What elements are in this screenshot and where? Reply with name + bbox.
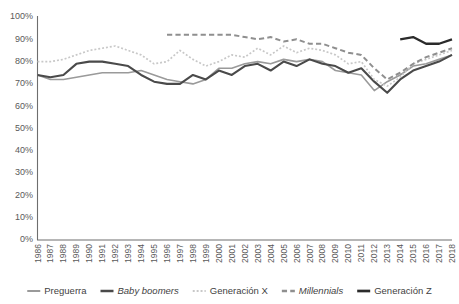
legend-label: Generación X	[210, 285, 269, 296]
y-axis-tick-label: 50%	[15, 123, 33, 133]
x-axis-tick-label: 2013	[382, 244, 392, 263]
y-axis-tick-labels: 0%10%20%30%40%50%60%70%80%90%100%	[10, 11, 33, 244]
x-axis-tick-labels: 1986198719881989199019911992199319941995…	[33, 244, 458, 263]
y-axis-tick-label: 20%	[15, 190, 33, 200]
chart-canvas: 0%10%20%30%40%50%60%70%80%90%100% 198619…	[0, 0, 459, 304]
y-axis-tick-label: 0%	[20, 234, 33, 244]
x-axis-tick-label: 1997	[175, 244, 185, 263]
axis-lines	[38, 16, 453, 240]
x-axis-tick-label: 2010	[343, 244, 353, 263]
x-axis-tick-label: 1999	[201, 244, 211, 263]
legend-item-preguerra[interactable]: Preguerra	[27, 285, 87, 296]
x-axis-tick-label: 1986	[33, 244, 43, 263]
series-line-generacion-z	[400, 37, 452, 44]
x-axis-tick-label: 1995	[149, 244, 159, 263]
line-chart: 0%10%20%30%40%50%60%70%80%90%100% 198619…	[0, 0, 459, 304]
x-axis-tick-label: 2007	[305, 244, 315, 263]
y-axis-tick-label: 100%	[10, 11, 33, 21]
y-axis-tick-label: 10%	[15, 212, 33, 222]
legend-item-millennials[interactable]: Millennials	[282, 285, 344, 296]
legend-label: Generación Z	[374, 285, 432, 296]
x-axis-tick-label: 1996	[162, 244, 172, 263]
x-axis-tick-label: 2003	[253, 244, 263, 263]
legend-label: Millennials	[299, 285, 344, 296]
legend-label: Baby boomers	[117, 285, 179, 296]
series-lines	[38, 35, 453, 93]
legend-item-generacion-x[interactable]: Generación X	[193, 285, 269, 296]
x-axis-tick-label: 2002	[240, 244, 250, 263]
x-axis-tick-label: 2014	[395, 244, 405, 263]
legend-label: Preguerra	[44, 285, 87, 296]
x-axis-tick-label: 2011	[356, 244, 366, 263]
x-axis-tick-label: 2008	[317, 244, 327, 263]
x-axis-tick-label: 2016	[421, 244, 431, 263]
x-axis-tick-label: 1987	[45, 244, 55, 263]
x-axis-tick-label: 1998	[188, 244, 198, 263]
y-axis-tick-label: 90%	[15, 34, 33, 44]
chart-legend: PreguerraBaby boomersGeneración XMillenn…	[27, 285, 432, 296]
x-axis-tick-label: 2006	[292, 244, 302, 263]
x-axis-tick-label: 2009	[330, 244, 340, 263]
x-axis-tick-label: 1988	[58, 244, 68, 263]
x-axis-tick-label: 2015	[408, 244, 418, 263]
x-axis-tick-label: 1991	[97, 244, 107, 263]
x-axis-tick-label: 2012	[369, 244, 379, 263]
x-axis-tick-label: 1993	[123, 244, 133, 263]
x-axis-tick-label: 1990	[84, 244, 94, 263]
legend-item-generacion-z[interactable]: Generación Z	[357, 285, 432, 296]
y-axis-tick-label: 80%	[15, 56, 33, 66]
chart-axes	[38, 16, 453, 240]
y-axis-tick-label: 30%	[15, 167, 33, 177]
x-axis-tick-label: 2000	[214, 244, 224, 263]
x-axis-tick-label: 2001	[227, 244, 237, 263]
x-axis-tick-label: 1989	[71, 244, 81, 263]
x-axis-tick-label: 2005	[279, 244, 289, 263]
series-line-preguerra	[38, 55, 453, 91]
legend-item-baby-boomers[interactable]: Baby boomers	[100, 285, 179, 296]
x-axis-tick-label: 2004	[266, 244, 276, 263]
x-axis-tick-label: 2018	[447, 244, 457, 263]
y-axis-tick-label: 70%	[15, 78, 33, 88]
y-axis-tick-label: 60%	[15, 101, 33, 111]
x-axis-tick-label: 1992	[110, 244, 120, 263]
x-axis-tick-label: 1994	[136, 244, 146, 263]
y-axis-tick-label: 40%	[15, 145, 33, 155]
x-axis-tick-label: 2017	[434, 244, 444, 263]
